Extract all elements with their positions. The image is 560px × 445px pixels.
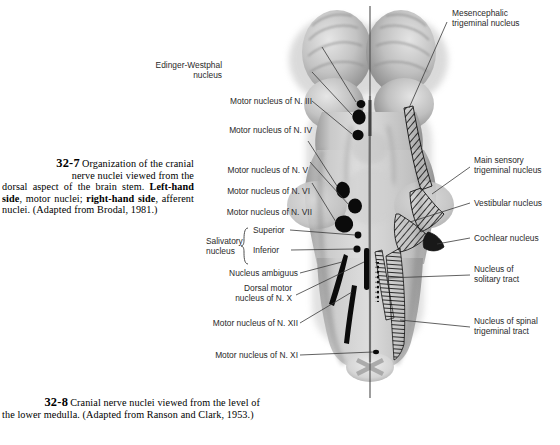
leader-cochlear [437,238,470,244]
brainstem-illustration [0,0,560,445]
caption-32-8-seg-a: Cranial nerve nuclei viewed from the lev… [70,397,260,408]
label-cochlear-nucleus-text: Cochlear nucleus [474,233,560,243]
label-motor-nucleus-iii-text: Motor nucleus of N. III [90,96,312,106]
nucleus-dorsal-motor-x-column [364,248,369,290]
caption-32-7-seg-f: , motor nuclei; [19,193,86,204]
label-nucleus-ambiguus[interactable]: Nucleus ambiguus [130,268,298,278]
label-dorsal-motor-x[interactable]: Dorsal motor nucleus of N. X [130,283,292,304]
label-nucleus-spinal-trigeminal[interactable]: Nucleus of spinal trigeminal tract [474,316,560,337]
label-salivatory-inferior-text: Inferior [253,245,313,255]
nucleus-edinger-westphal [357,100,366,108]
figure-page: Edinger-Westphal nucleus Motor nucleus o… [0,0,560,445]
label-mesencephalic-trigeminal-line1: Mesencephalic [452,8,560,18]
nucleus-abducens-vi [348,199,362,214]
nucleus-trochlear-iv [352,130,363,140]
caption-32-7-seg-g: right-hand [86,193,134,204]
label-motor-nucleus-iii[interactable]: Motor nucleus of N. III [90,96,312,106]
label-vestibular-nucleus-text: Vestibular nucleus [474,198,560,208]
label-motor-nucleus-xii-text: Motor nucleus of N. XII [86,318,298,328]
label-nucleus-solitary-tract-line2: solitary tract [474,274,560,284]
label-edinger-westphal-line2: nucleus [126,70,222,80]
label-nucleus-ambiguus-text: Nucleus ambiguus [130,268,298,278]
label-salivatory-superior-text: Superior [253,225,313,235]
figure-caption-32-8: 32-8Cranial nerve nuclei viewed from the… [2,397,260,420]
caption-32-7-seg-a: Organization of the cranial [82,158,194,169]
caption-32-7-seg-h: side [138,193,155,204]
label-motor-nucleus-iv[interactable]: Motor nucleus of N. IV [90,125,312,135]
label-dorsal-motor-x-line1: Dorsal motor [130,283,292,293]
caption-32-7-seg-c: dorsal aspect of the brain stem. [2,181,149,192]
label-motor-nucleus-xi[interactable]: Motor nucleus of N. XI [86,350,298,360]
caption-32-7-seg-b: nerve nuclei viewed from the [2,170,194,182]
figure-caption-32-7: 32-7Organization of the cranial nerve nu… [2,158,194,216]
caption-32-8-seg-b: the lower medulla. (Adapted from Ranson … [2,409,196,420]
label-salivatory-superior[interactable]: Superior [253,225,313,235]
caption-32-7-seg-j: Brodal, 1981.) [97,204,158,215]
label-motor-nucleus-xi-text: Motor nucleus of N. XI [86,350,298,360]
label-motor-nucleus-xii[interactable]: Motor nucleus of N. XII [86,318,298,328]
label-nucleus-solitary-tract-line1: Nucleus of [474,264,560,274]
label-edinger-westphal-line1: Edinger-Westphal [126,60,222,70]
label-main-sensory-trigeminal[interactable]: Main sensory trigeminal nucleus [474,155,560,176]
label-motor-nucleus-iv-text: Motor nucleus of N. IV [90,125,312,135]
leader-main-sensory [432,167,470,194]
nucleus-cochlear [423,232,444,251]
caption-32-8-seg-c: Clark, 1953.) [198,409,253,420]
label-main-sensory-trigeminal-line2: trigeminal nucleus [474,165,560,175]
label-main-sensory-trigeminal-line1: Main sensory [474,155,560,165]
nucleus-salivatory-inferior [353,245,360,252]
caption-32-7-seg-d: Left- [149,181,171,192]
nucleus-accessory-xi [373,350,379,354]
label-vestibular-nucleus[interactable]: Vestibular nucleus [474,198,560,208]
label-nucleus-spinal-trigeminal-line2: trigeminal tract [474,326,560,336]
label-nucleus-solitary-tract[interactable]: Nucleus of solitary tract [474,264,560,285]
dotted-column [375,262,379,302]
label-mesencephalic-trigeminal-line2: trigeminal nucleus [452,18,560,28]
label-cochlear-nucleus[interactable]: Cochlear nucleus [474,233,560,243]
label-salivatory-inferior[interactable]: Inferior [253,245,313,255]
label-edinger-westphal[interactable]: Edinger-Westphal nucleus [126,60,222,81]
label-nucleus-spinal-trigeminal-line1: Nucleus of spinal [474,316,560,326]
label-mesencephalic-trigeminal[interactable]: Mesencephalic trigeminal nucleus [452,8,560,29]
nucleus-salivatory-superior [355,232,362,239]
figure-number-32-8: 32-8 [44,395,68,409]
label-dorsal-motor-x-line2: nucleus of N. X [130,293,292,303]
figure-number-32-7: 32-7 [56,156,80,170]
